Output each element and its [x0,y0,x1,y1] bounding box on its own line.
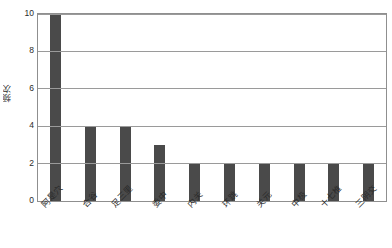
bars-layer [38,14,386,201]
y-axis-tick-label: 2 [29,158,34,168]
bar[interactable] [50,14,61,201]
y-axis-tickmark [37,163,38,164]
y-axis-tickmark [37,126,38,127]
y-axis-tick-label: 10 [25,8,34,18]
y-axis-tick-label: 0 [29,195,34,205]
bar-chart: 频次 0246810 阿是穴合谷足三里委中内关环跳关元中极十七椎三阴交 [0,0,392,248]
y-axis-tick-label: 8 [29,45,34,55]
y-axis-tick-label: 4 [29,120,34,130]
plot-area [37,13,387,202]
gridline [38,51,386,52]
y-axis-tick-labels: 0246810 [16,0,34,248]
gridline [38,14,386,15]
y-axis-tickmark [37,88,38,89]
y-axis-tickmark [37,14,38,15]
y-axis-tick-label: 6 [29,83,34,93]
gridline [38,88,386,89]
gridline [38,163,386,164]
gridline [38,126,386,127]
x-axis-tick-labels: 阿是穴合谷足三里委中内关环跳关元中极十七椎三阴交 [37,202,387,248]
y-axis-tickmark [37,51,38,52]
